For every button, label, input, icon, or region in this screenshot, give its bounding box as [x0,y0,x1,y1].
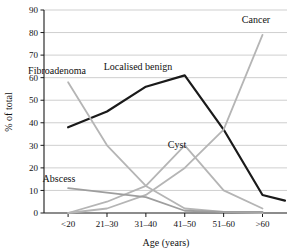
y-tick-label: 70 [29,50,39,60]
y-tick-label: 0 [34,208,39,218]
gridlines [44,10,287,190]
series-line-cyst [68,145,262,213]
y-tick-label: 40 [29,118,39,128]
series-label-fibroadenoma: Fibroadenoma [28,65,86,76]
x-tick-label: 51–60 [212,219,235,229]
y-tick-label: 80 [29,28,39,38]
x-tick-labels: <2021–3031–4041–5051–60>60 [61,219,270,229]
y-tick-label: 20 [29,163,39,173]
x-axis [44,213,287,217]
y-tick-label: 50 [29,95,39,105]
series-label-cyst: Cyst [168,139,187,150]
chart-container: 0102030405060708090 <2021–3031–4041–5051… [0,0,299,252]
series-line-localised-benign [68,75,285,200]
series-line-abscess [68,188,262,212]
data-series [68,35,285,213]
y-tick-label: 30 [29,141,39,151]
y-tick-labels: 0102030405060708090 [29,5,39,218]
x-tick-label: <20 [61,219,76,229]
x-tick-label: 31–40 [135,219,158,229]
x-tick-label: >60 [255,219,270,229]
x-axis-title: Age (years) [143,237,190,249]
series-label-cancer: Cancer [242,14,271,25]
line-chart: 0102030405060708090 <2021–3031–4041–5051… [0,0,299,252]
series-label-localised-benign: Localised benign [104,61,173,72]
y-axis-title: % of total [3,92,14,132]
x-tick-label: 21–30 [96,219,119,229]
y-tick-label: 10 [29,186,39,196]
x-tick-label: 41–50 [173,219,196,229]
y-tick-label: 90 [29,5,39,15]
series-annotations: CancerLocalised benignFibroadenomaCystAb… [28,14,271,184]
series-label-abscess: Abscess [43,173,76,184]
